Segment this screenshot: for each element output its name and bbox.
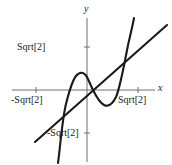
y-axis-name-label: y (84, 4, 88, 14)
math-figure: Sqrt[2] -Sqrt[2] -Sqrt[2] Sqrt[2] y x (0, 0, 172, 165)
x-axis-tick-label-sqrt2: Sqrt[2] (118, 95, 146, 105)
curve-line-y-equals-x (35, 25, 167, 142)
y-axis-tick-label-sqrt2: Sqrt[2] (17, 42, 45, 52)
x-axis-tick-label-negative-sqrt2: -Sqrt[2] (11, 95, 43, 105)
x-axis-name-label: x (158, 83, 162, 93)
y-axis-tick-label-negative-sqrt2: -Sqrt[2] (47, 128, 79, 138)
plot-area (0, 0, 172, 165)
